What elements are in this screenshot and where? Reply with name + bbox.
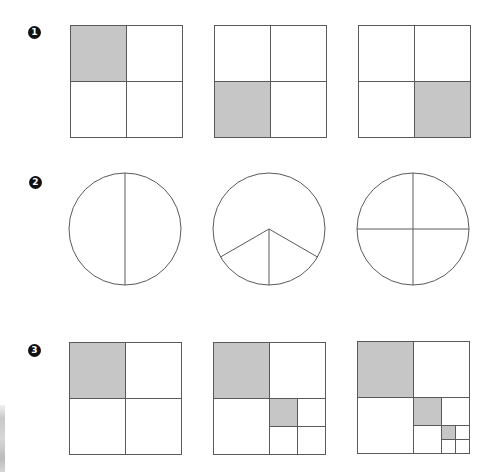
quarter-bottom-right	[298, 427, 326, 455]
figure-1-3	[359, 26, 471, 138]
quarter-top-right	[456, 426, 470, 440]
quarter-top-right	[270, 343, 326, 399]
quarter-bottom-right	[126, 399, 182, 455]
quarter-top-right	[271, 26, 327, 82]
figure-3-1	[70, 343, 182, 455]
quarter-bottom-left	[215, 82, 271, 138]
quarter-bottom-left	[442, 440, 456, 454]
quarter-bottom-right	[456, 440, 470, 454]
quarter-bottom-left	[270, 427, 298, 455]
quarter-bottom-right	[127, 82, 183, 138]
figure-1-2	[215, 26, 327, 138]
quarter-top-left	[215, 26, 271, 82]
shaded-quarter-level-1	[358, 342, 414, 398]
figure-1-1	[71, 26, 183, 138]
quarter-bottom-left	[359, 82, 415, 138]
divider-line	[269, 229, 317, 257]
shaded-quarter-level-1	[214, 343, 270, 399]
quarter-bottom-left	[414, 426, 442, 454]
quarter-bottom-left	[358, 398, 414, 454]
shaded-quarter-level-2	[270, 399, 298, 427]
shaded-quarter-level-3	[442, 426, 456, 440]
quarter-top-right	[414, 342, 470, 398]
quarter-top-left	[359, 26, 415, 82]
quarter-top-right	[442, 398, 470, 426]
figure-3-2	[214, 343, 326, 455]
divider-line	[221, 229, 269, 257]
quarter-bottom-right	[415, 82, 471, 138]
quarter-bottom-left	[71, 82, 127, 138]
quarter-bottom-left	[214, 399, 270, 455]
fractions-diagram	[0, 0, 494, 472]
figure-2-1	[69, 173, 181, 285]
shaded-quarter-level-2	[414, 398, 442, 426]
row-2-divided-circles	[69, 173, 469, 285]
figure-3-3	[358, 342, 470, 454]
quarter-bottom-right	[271, 82, 327, 138]
row-1-quartered-squares	[71, 26, 471, 138]
quarter-bottom-left	[70, 399, 126, 455]
quarter-top-right	[415, 26, 471, 82]
row-3-recursive-squares	[70, 342, 470, 455]
quarter-top-right	[126, 343, 182, 399]
figure-2-3	[357, 173, 469, 285]
shaded-quarter-level-1	[70, 343, 126, 399]
figure-2-2	[213, 173, 325, 285]
quarter-top-right	[298, 399, 326, 427]
quarter-top-left	[71, 26, 127, 82]
quarter-top-right	[127, 26, 183, 82]
